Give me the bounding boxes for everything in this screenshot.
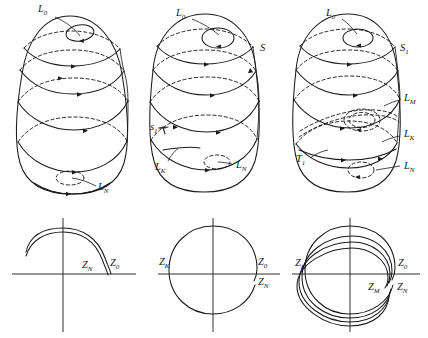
panel-top-right: L0 S1 LM LK T1 LN [293,7,417,192]
flow-arrow-3c [340,126,345,130]
label-s-2: S [260,42,266,53]
surface-outline-3 [293,14,401,192]
label-l-n-2: LN [235,159,247,173]
flow-arrow-1f [58,76,63,80]
spiral-band-2c-back [150,77,259,102]
label-s-one-2: s1 [150,121,158,135]
flow-arrow-1b [77,92,82,96]
bottom-loop-1 [56,171,84,185]
label-t-one-3: T1 [296,153,305,167]
top-loop-3 [343,29,373,47]
panel-bottom-right: ZK Z0 ZM ZN [292,218,420,332]
label-l-m-3: LM [403,92,417,106]
label-l-k-3: LK [403,128,415,142]
flow-arrow-2e [248,68,253,73]
flow-arrow-3e [356,128,361,132]
leader-2-lk [168,149,178,161]
spiral-band-3b-back [296,50,398,71]
flow-arrow-2b [210,93,215,97]
spiral-band-2b [153,70,256,95]
label-z-k-2: ZK [159,256,170,270]
flow-arrow-3f [355,175,360,179]
spiral-band-3b [296,70,398,95]
bottom-loop-2 [204,155,230,169]
label-z-zero-1: Z0 [110,257,120,271]
spiral-curve-3c [299,242,390,322]
label-s-one-3: S1 [400,42,409,56]
label-z-m-3: ZM [368,281,381,295]
leader-2-l0 [192,19,219,35]
leader-1-l0 [55,17,80,36]
spiral-band-1a [24,48,120,66]
top-loop-2 [202,28,234,48]
leader-3-l0 [342,19,357,34]
figure-root: L0 LN L0 S s [0,0,428,338]
spiral-band-2a [157,46,253,64]
flow-arrow-2d [205,168,210,172]
flow-arrow-2a [204,62,209,66]
label-l-n-3: LN [403,160,415,174]
label-z-zero-3: Z0 [398,257,408,271]
surface-outline-1 [16,16,127,194]
flow-arrow-3a [347,62,352,66]
panel-top-left: L0 LN [16,3,128,196]
label-z-n-1: ZN [82,259,93,273]
arc-inner-1 [26,232,108,275]
label-l-n-1: LN [97,181,109,195]
flow-arrow-3b [353,93,358,97]
lk-curve-2 [163,147,200,150]
flow-arrow-1e [66,192,71,196]
label-z-zero-2: Z0 [258,256,268,270]
flow-arrow-3d [341,158,346,162]
spiral-band-1d [18,141,127,172]
spiral-band-2b-back [153,50,256,71]
label-l-zero-2: L0 [175,7,186,21]
panel-bottom-middle: ZK Z0 ZN [158,218,280,332]
bottom-loop-3 [348,162,374,178]
label-l-zero-1: L0 [37,3,48,17]
panel-top-middle: L0 S s1 LK LN [150,7,266,192]
spiral-band-1c [18,101,128,130]
mathematical-figure: L0 LN L0 S s [0,0,428,338]
label-l-k-2: LK [154,161,166,175]
panel-bottom-left: ZN Z0 [12,218,136,332]
label-z-n-2: ZN [258,276,269,290]
spiral-band-1c-back [18,78,128,102]
loop-arrow-1 [79,39,84,43]
flow-arrow-1d [72,170,77,174]
flow-arrow-1a [71,64,76,68]
leader-3-ln [376,166,400,170]
spiral-band-1b [20,70,124,94]
spiral-band-3c-back [294,76,400,100]
spiral-band-3a [300,46,395,64]
label-z-n-3: ZN [397,281,408,295]
label-z-k-3: ZK [295,257,306,271]
